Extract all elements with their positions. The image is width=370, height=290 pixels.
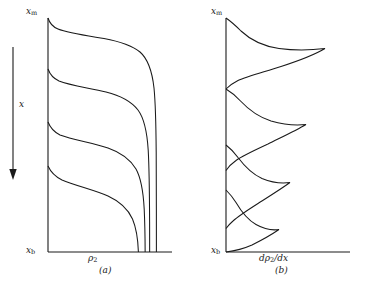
figure-canvas	[0, 0, 370, 290]
panel-a-axes	[48, 18, 172, 252]
concentration-profile-4	[48, 166, 138, 252]
concentration-profile-1	[48, 18, 156, 252]
derivative-peak-3	[226, 145, 290, 229]
panel-a-curves	[48, 18, 156, 252]
panel-a-x-axis-label: ρ2	[88, 254, 97, 264]
panel-b-x-axis-label: dρ2/dx	[259, 254, 288, 264]
derivative-peak-1	[226, 18, 325, 89]
panel-a-top-axis-label: xm	[26, 7, 37, 17]
direction-arrow-label: x	[19, 100, 24, 109]
panel-b-curves	[226, 18, 325, 252]
derivative-peak-4	[226, 190, 279, 252]
panel-a-bottom-axis-label: xb	[26, 246, 35, 256]
direction-arrow-x	[9, 47, 16, 180]
panel-b-top-axis-label: xm	[211, 7, 222, 17]
panel-b-bottom-axis-label: xb	[211, 246, 220, 256]
panel-b-axes	[226, 18, 350, 252]
panel-a-caption: (a)	[99, 266, 111, 275]
panel-b-caption: (b)	[275, 266, 288, 275]
concentration-profile-3	[48, 122, 145, 252]
